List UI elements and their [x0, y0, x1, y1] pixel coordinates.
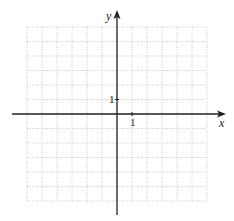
x-axis-label: x [219, 117, 224, 129]
y-tick-label: 1 [109, 94, 115, 105]
x-tick-label: 1 [130, 117, 136, 128]
y-axis [114, 10, 121, 215]
x-axis [12, 111, 226, 118]
y-axis-label: y [106, 10, 111, 22]
coordinate-plane [0, 0, 234, 221]
